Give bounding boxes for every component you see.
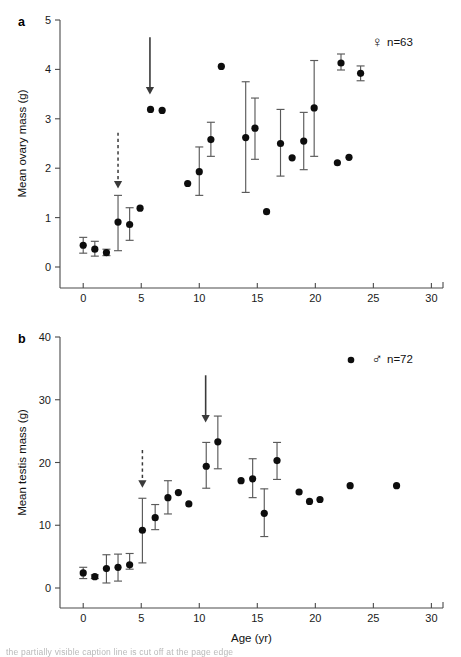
panel-b-dashed-arrow-head bbox=[138, 480, 146, 488]
data-point bbox=[126, 221, 133, 228]
panel-a-female-symbol: ♀ bbox=[371, 33, 382, 50]
panel-b-male-symbol: ♂ bbox=[371, 350, 382, 367]
panel-b-x-tick-label: 10 bbox=[193, 612, 205, 624]
legend-marker bbox=[337, 59, 344, 66]
panel-b-y-tick-label: 20 bbox=[39, 457, 51, 469]
panel-a-x-tick-label: 0 bbox=[80, 292, 86, 304]
data-point bbox=[147, 106, 154, 113]
panel-b-y-tick-label: 40 bbox=[39, 331, 51, 343]
panel-b-y-tick-label: 30 bbox=[39, 394, 51, 406]
data-point bbox=[311, 104, 318, 111]
panel-a-x-tick-label: 25 bbox=[367, 292, 379, 304]
panel-b-x-tick-label: 0 bbox=[80, 612, 86, 624]
data-point bbox=[357, 70, 364, 77]
panel-a-legend-label: n=63 bbox=[387, 36, 413, 48]
data-point bbox=[80, 242, 87, 249]
data-point bbox=[300, 137, 307, 144]
data-point bbox=[251, 125, 258, 132]
data-point bbox=[103, 249, 110, 256]
panel-a-x-tick-label: 20 bbox=[309, 292, 321, 304]
data-point bbox=[159, 107, 166, 114]
panel-a-y-tick-label: 2 bbox=[45, 162, 51, 174]
data-point bbox=[80, 569, 87, 576]
data-point bbox=[114, 564, 121, 571]
panel-a-x-axis bbox=[60, 282, 443, 288]
panel-a-x-tick-label: 5 bbox=[138, 292, 144, 304]
panel-b-y-tick-label: 0 bbox=[45, 582, 51, 594]
data-point bbox=[203, 463, 210, 470]
data-point bbox=[164, 494, 171, 501]
data-point bbox=[196, 168, 203, 175]
data-point bbox=[334, 159, 341, 166]
data-point bbox=[306, 498, 313, 505]
panel-a-label: a bbox=[18, 15, 26, 29]
panel-a-y-axis-title: Mean ovary mass (g) bbox=[16, 89, 28, 197]
data-point bbox=[184, 180, 191, 187]
panel-b-x-tick-label: 30 bbox=[425, 612, 437, 624]
data-point bbox=[103, 565, 110, 572]
panel-a-y-tick-label: 1 bbox=[45, 212, 51, 224]
panel-a-y-tick-label: 3 bbox=[45, 113, 51, 125]
data-point bbox=[237, 477, 244, 484]
panel-b-legend: ♂n=72 bbox=[348, 350, 413, 367]
data-point bbox=[295, 488, 302, 495]
panel-b-y-tick-label: 10 bbox=[39, 519, 51, 531]
data-point bbox=[316, 496, 323, 503]
panel-a-x-tick-label: 30 bbox=[425, 292, 437, 304]
data-point bbox=[277, 140, 284, 147]
panel-b-x-axis bbox=[60, 602, 443, 608]
panel-a: a012345051015202530Mean ovary mass (g)♀n… bbox=[16, 14, 443, 304]
legend-marker bbox=[348, 357, 355, 364]
data-point bbox=[273, 457, 280, 464]
data-point bbox=[261, 510, 268, 517]
data-point bbox=[249, 475, 256, 482]
panel-a-x-tick-label: 15 bbox=[251, 292, 263, 304]
panel-b-label: b bbox=[18, 332, 26, 346]
data-point bbox=[114, 218, 121, 225]
figure-caption-strip: the partially visible caption line is cu… bbox=[0, 645, 461, 657]
data-point bbox=[175, 489, 182, 496]
panel-a-y-tick-label: 0 bbox=[45, 261, 51, 273]
data-point bbox=[345, 154, 352, 161]
panel-a-dashed-arrow-head bbox=[114, 181, 122, 189]
panel-b: b010203040051015202530Mean testis mass (… bbox=[16, 331, 443, 644]
panel-b-x-axis-title: Age (yr) bbox=[231, 632, 272, 644]
data-point bbox=[289, 154, 296, 161]
data-point bbox=[139, 527, 146, 534]
panel-a-y-tick-label: 4 bbox=[45, 63, 51, 75]
figure-container: a012345051015202530Mean ovary mass (g)♀n… bbox=[0, 0, 461, 657]
data-point bbox=[185, 500, 192, 507]
panel-b-x-tick-label: 15 bbox=[251, 612, 263, 624]
panel-a-legend: ♀n=63 bbox=[337, 33, 413, 70]
data-point bbox=[263, 208, 270, 215]
panel-a-y-tick-label: 5 bbox=[45, 14, 51, 26]
panel-b-solid-arrow-head bbox=[202, 415, 210, 423]
data-point bbox=[91, 246, 98, 253]
panel-b-legend-label: n=72 bbox=[387, 353, 413, 365]
data-point bbox=[126, 561, 133, 568]
two-panel-scatter-figure: a012345051015202530Mean ovary mass (g)♀n… bbox=[0, 0, 461, 657]
data-point bbox=[136, 205, 143, 212]
data-point bbox=[218, 63, 225, 70]
panel-a-solid-arrow-head bbox=[146, 87, 154, 95]
data-point bbox=[242, 134, 249, 141]
data-point bbox=[207, 136, 214, 143]
data-point bbox=[214, 438, 221, 445]
figure-caption-text: the partially visible caption line is cu… bbox=[0, 645, 461, 657]
data-point bbox=[91, 573, 98, 580]
panel-b-y-axis-title: Mean testis mass (g) bbox=[16, 409, 28, 516]
data-point bbox=[393, 482, 400, 489]
panel-a-x-tick-label: 10 bbox=[193, 292, 205, 304]
panel-b-x-tick-label: 5 bbox=[138, 612, 144, 624]
panel-b-x-tick-label: 25 bbox=[367, 612, 379, 624]
panel-b-x-tick-label: 20 bbox=[309, 612, 321, 624]
data-point bbox=[152, 514, 159, 521]
data-point bbox=[347, 482, 354, 489]
